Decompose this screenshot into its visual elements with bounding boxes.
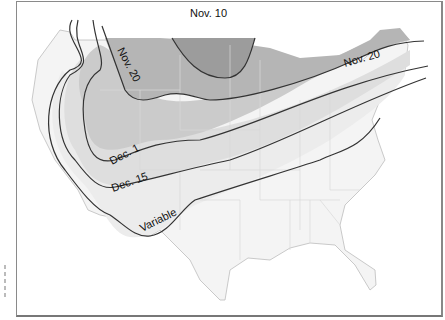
label-nov-10: Nov. 10 xyxy=(190,7,227,19)
frost-date-map: Nov. 10 Nov. 20 Nov. 20 Dec. 1 Dec. 15 V… xyxy=(0,0,445,320)
image-credit-marks xyxy=(2,262,10,312)
